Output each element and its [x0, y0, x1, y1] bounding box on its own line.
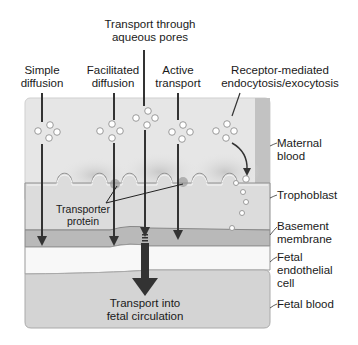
label-line: Fetal blood	[277, 298, 334, 311]
label-receptor-mediated: Receptor-mediated endocytosis/exocytosis	[210, 64, 350, 90]
label-fetal-blood: Fetal blood	[277, 298, 334, 311]
label-line: fetal circulation	[90, 310, 200, 323]
label-active-transport: Active transport	[150, 64, 206, 90]
label-facilitated-diffusion: Facilitated diffusion	[78, 64, 148, 90]
label-line: Active	[150, 64, 206, 77]
label-line: Simple	[10, 64, 74, 77]
placenta-transport-diagram	[0, 0, 358, 345]
label-line: Fetal	[277, 251, 333, 264]
label-line: membrane	[277, 233, 332, 246]
label-transporter-protein: Transporter protein	[48, 203, 118, 227]
label-line: Basement	[277, 220, 332, 233]
label-simple-diffusion: Simple diffusion	[10, 64, 74, 90]
label-basement-membrane: Basement membrane	[277, 220, 332, 246]
label-line: diffusion	[78, 77, 148, 90]
label-line: Receptor-mediated	[210, 64, 350, 77]
label-line: blood	[277, 150, 322, 163]
label-line: aqueous pores	[90, 31, 210, 44]
label-line: Transport into	[90, 297, 200, 310]
label-line: diffusion	[10, 77, 74, 90]
label-line: transport	[150, 77, 206, 90]
label-line: protein	[48, 215, 118, 227]
label-maternal-blood: Maternal blood	[277, 137, 322, 163]
label-line: endocytosis/exocytosis	[210, 77, 350, 90]
label-aqueous-pores: Transport through aqueous pores	[90, 18, 210, 44]
label-line: endothelial	[277, 264, 333, 277]
label-transport-fetal-circulation: Transport into fetal circulation	[90, 297, 200, 323]
label-line: Transport through	[90, 18, 210, 31]
layer-leader-lines	[270, 143, 277, 308]
label-trophoblast: Trophoblast	[277, 189, 337, 202]
label-line: cell	[277, 277, 333, 290]
label-line: Facilitated	[78, 64, 148, 77]
label-line: Maternal	[277, 137, 322, 150]
label-fetal-endothelial-cell: Fetal endothelial cell	[277, 251, 333, 290]
label-line: Trophoblast	[277, 189, 337, 202]
label-line: Transporter	[48, 203, 118, 215]
